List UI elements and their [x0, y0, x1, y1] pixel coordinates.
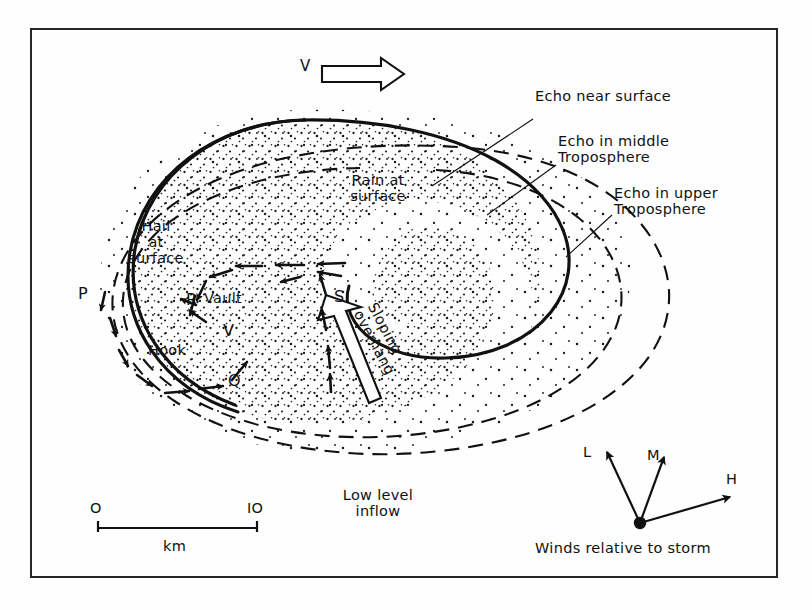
wind-label-M: M [647, 447, 660, 463]
low-level-inflow-label: Low level inflow [313, 487, 443, 519]
scale-start-label: O [90, 500, 102, 516]
storm-motion-label: V [300, 58, 311, 75]
flow-arrow [330, 374, 331, 392]
wind-vector-M [640, 457, 664, 523]
storm-motion-arrow [322, 58, 404, 90]
wind-origin-dot [634, 517, 646, 529]
point-label-V: V [223, 322, 234, 340]
echo-near-surface-label: Echo near surface [535, 88, 671, 104]
scale-end-label: IO [247, 500, 263, 516]
wind-vector-L [607, 452, 640, 523]
wind-vector-H [640, 497, 730, 523]
wind-label-L: L [583, 444, 591, 460]
echo-upper-troposphere-label: Echo in upper Troposphere [614, 185, 718, 217]
wind-vectors [607, 452, 730, 523]
point-label-Q: Q [228, 372, 241, 390]
storm-echo-figure: V Rain at surface Hail at surface Vault … [0, 0, 812, 610]
hail-region-label: Hail at surface [108, 218, 204, 267]
rain-region-label: Rain at surface [318, 172, 438, 204]
wind-label-H: H [726, 471, 737, 487]
point-label-R: R [186, 291, 197, 309]
scale-bar [98, 521, 257, 532]
vault-region-label: Vault [204, 290, 242, 306]
flow-arrow [318, 263, 345, 264]
wind-inset-caption: Winds relative to storm [535, 540, 711, 556]
echo-middle-troposphere-label: Echo in middle Troposphere [558, 133, 669, 165]
scale-units-label: km [163, 538, 186, 554]
hook-region-label: Hook [148, 342, 186, 358]
point-label-P: P [78, 285, 88, 303]
point-label-S: S [334, 288, 344, 306]
